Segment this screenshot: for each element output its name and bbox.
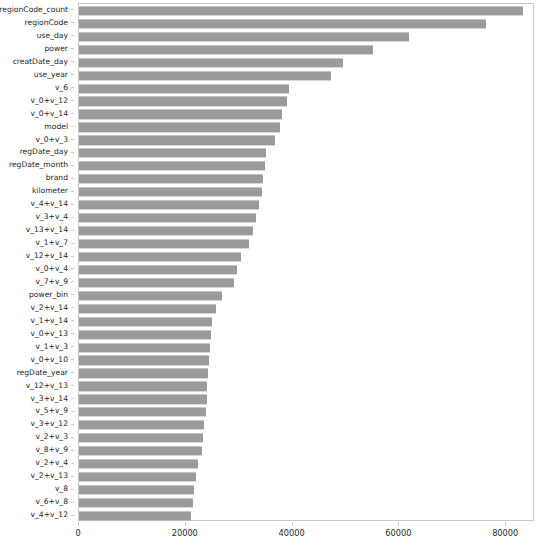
x-tick-mark: [505, 522, 506, 526]
bar-row: [79, 17, 535, 31]
x-axis-tick-labels: 020000400006000080000: [0, 522, 547, 548]
bar-row: [79, 354, 535, 368]
y-tick-label: v_0+v_3: [35, 133, 68, 147]
bar-row: [79, 276, 535, 290]
plot-area: [78, 3, 534, 521]
y-tick-mark: [71, 152, 75, 153]
bar: [79, 32, 409, 41]
y-tick-mark: [71, 437, 75, 438]
y-tick-label: v_2+v_3: [35, 430, 68, 444]
y-axis-tick-labels: regionCode_countregionCodeuse_daypowercr…: [0, 3, 74, 521]
y-tick-label: v_1+v_3: [35, 340, 68, 354]
y-tick-label: model: [44, 120, 68, 134]
bar-row: [79, 341, 535, 355]
y-tick-mark: [71, 165, 75, 166]
y-tick-label: v_2+v_13: [31, 469, 68, 483]
bar-row: [79, 172, 535, 186]
bar-row: [79, 211, 535, 225]
bar-row: [79, 496, 535, 510]
y-tick-label: regionCode_count: [0, 3, 68, 17]
bar: [79, 434, 203, 443]
bar-row: [79, 108, 535, 122]
y-tick-label: v_4+v_14: [31, 197, 68, 211]
bar-row: [79, 380, 535, 394]
y-tick-label: v_7+v_9: [35, 275, 68, 289]
x-tick-label: 0: [75, 528, 80, 538]
y-tick-mark: [71, 476, 75, 477]
bar: [79, 498, 193, 507]
y-tick-label: v_0+v_14: [31, 107, 68, 121]
y-tick-mark: [71, 178, 75, 179]
bar: [79, 162, 265, 171]
y-tick-mark: [71, 372, 75, 373]
y-tick-mark: [71, 450, 75, 451]
x-tick-label: 20000: [172, 528, 198, 538]
bar: [79, 472, 196, 481]
bar: [79, 408, 206, 417]
x-tick-label: 80000: [492, 528, 518, 538]
y-tick-label: v_12+v_14: [26, 249, 68, 263]
bar: [79, 213, 256, 222]
y-tick-mark: [71, 87, 75, 88]
bar: [79, 382, 207, 391]
bar-chart-figure: regionCode_countregionCodeuse_daypowercr…: [0, 0, 547, 550]
bar-row: [79, 431, 535, 445]
y-tick-mark: [71, 256, 75, 257]
bar-row: [79, 328, 535, 342]
bar: [79, 6, 523, 15]
x-tick-mark: [292, 522, 293, 526]
y-tick-label: v_6: [55, 81, 68, 95]
y-tick-label: v_1+v_14: [31, 314, 68, 328]
bar-row: [79, 457, 535, 471]
y-tick-label: v_0+v_13: [31, 327, 68, 341]
y-tick-mark: [71, 113, 75, 114]
bar: [79, 239, 249, 248]
y-tick-mark: [71, 385, 75, 386]
y-tick-label: v_2+v_4: [35, 456, 68, 470]
bar: [79, 226, 253, 235]
y-tick-mark: [71, 320, 75, 321]
y-tick-label: v_13+v_14: [26, 223, 68, 237]
bar: [79, 188, 262, 197]
bar: [79, 19, 486, 28]
bar: [79, 123, 280, 132]
y-tick-mark: [71, 424, 75, 425]
bar-row: [79, 56, 535, 70]
y-tick-label: brand: [46, 171, 68, 185]
y-tick-label: regDate_year: [17, 366, 68, 380]
bar-row: [79, 224, 535, 238]
y-tick-mark: [71, 489, 75, 490]
bar-row: [79, 405, 535, 419]
y-tick-label: v_8: [55, 482, 68, 496]
bar: [79, 278, 234, 287]
bar-row: [79, 418, 535, 432]
y-tick-mark: [71, 398, 75, 399]
bar: [79, 45, 373, 54]
bar: [79, 200, 259, 209]
bar-row: [79, 315, 535, 329]
y-tick-mark: [71, 139, 75, 140]
y-tick-label: regDate_day: [20, 145, 68, 159]
y-tick-label: v_8+v_9: [35, 443, 68, 457]
x-tick-mark: [78, 522, 79, 526]
bar-row: [79, 237, 535, 251]
bar: [79, 175, 263, 184]
bar-row: [79, 289, 535, 303]
bar: [79, 459, 198, 468]
x-tick-label: 60000: [385, 528, 411, 538]
bar-row: [79, 198, 535, 212]
y-tick-label: v_2+v_14: [31, 301, 68, 315]
bar: [79, 421, 204, 430]
bar-row: [79, 4, 535, 18]
y-tick-mark: [71, 35, 75, 36]
bar-row: [79, 393, 535, 407]
bar-row: [79, 121, 535, 135]
y-tick-label: v_6+v_8: [35, 495, 68, 509]
bar: [79, 343, 210, 352]
y-tick-label: use_year: [34, 68, 68, 82]
bar: [79, 265, 237, 274]
y-tick-label: v_5+v_9: [35, 404, 68, 418]
y-tick-mark: [71, 9, 75, 10]
bar: [79, 304, 216, 313]
bar-row: [79, 69, 535, 83]
